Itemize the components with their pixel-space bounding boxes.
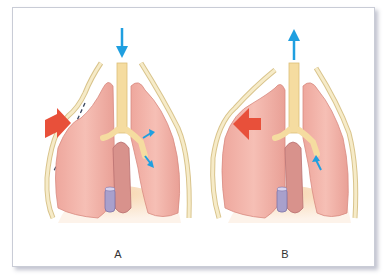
great-vessel: [105, 188, 115, 212]
panel-label-b: B: [281, 248, 288, 260]
airflow-down-arrow-icon: [116, 46, 128, 58]
mediastinum: [285, 142, 303, 213]
mediastinum: [113, 142, 131, 213]
panel-label-a: A: [114, 248, 121, 260]
figure-frame: A B: [12, 7, 375, 267]
great-vessel: [277, 188, 287, 212]
trachea: [117, 63, 127, 133]
trachea: [289, 63, 299, 133]
airflow-up-arrow-icon: [288, 29, 300, 41]
lung-diagram: [13, 8, 374, 266]
panel-a: [45, 28, 189, 223]
panel-b: [213, 29, 356, 223]
left-lung: [222, 84, 285, 218]
